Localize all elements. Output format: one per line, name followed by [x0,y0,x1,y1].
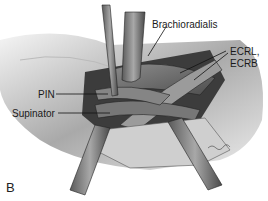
surgical-illustration: Brachioradialis ECRL, ECRB PIN Supinator… [0,0,268,201]
label-ecrb: ECRB [230,58,258,69]
panel-label: B [6,180,15,195]
forearm-exposure-drawing [0,0,268,201]
label-brachioradialis: Brachioradialis [152,19,218,30]
label-pin: PIN [38,89,55,100]
label-ecrl: ECRL, [230,46,259,57]
label-supinator: Supinator [12,108,55,119]
